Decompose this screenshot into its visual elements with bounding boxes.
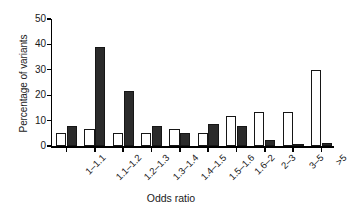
x-axis-tick-label: 2–3 — [278, 152, 297, 171]
x-axis-tick-label: 1.6–2 — [252, 152, 277, 177]
bar-filled — [208, 124, 218, 146]
bar-filled — [95, 47, 105, 146]
y-axis-tick-mark — [47, 120, 52, 121]
bar-group — [84, 19, 105, 146]
y-axis-tick-mark — [47, 69, 52, 70]
bar-filled — [237, 126, 247, 146]
x-axis-tick-label: 1.3–1.4 — [170, 152, 200, 182]
bar-open — [56, 133, 66, 146]
x-axis-tick-label: 1.2–1.3 — [142, 152, 172, 182]
x-axis-tick-label: 3–5 — [307, 152, 326, 171]
y-axis-tick-label: 50 — [26, 14, 46, 24]
y-axis-tick-mark — [47, 95, 52, 96]
bar-open — [141, 133, 151, 146]
x-axis-tick-label: 1.4–1.5 — [198, 152, 228, 182]
y-axis-tick-label: 10 — [26, 116, 46, 126]
y-axis-tick-label: 20 — [26, 90, 46, 100]
y-axis-tick-label: 40 — [26, 39, 46, 49]
bar-group — [311, 19, 332, 146]
x-axis-title: Odds ratio — [0, 192, 342, 204]
bar-group — [283, 19, 304, 146]
bar-filled — [152, 126, 162, 146]
y-axis-tick-mark — [47, 44, 52, 45]
bar-open — [198, 133, 208, 146]
bar-filled — [322, 143, 332, 146]
y-axis-tick-labels: 01020304050 — [24, 0, 46, 216]
bar-group — [56, 19, 77, 146]
bar-group — [141, 19, 162, 146]
bar-open — [226, 116, 236, 146]
y-axis-tick-label: 0 — [26, 141, 46, 151]
bar-open — [169, 129, 179, 146]
bar-open — [283, 112, 293, 146]
y-axis-tick-mark — [47, 145, 52, 146]
bar-open — [84, 129, 94, 146]
bar-group — [226, 19, 247, 146]
bar-group — [169, 19, 190, 146]
bar-filled — [293, 144, 303, 146]
bar-filled — [124, 91, 134, 146]
x-axis-tick-label: 1–1.1 — [83, 152, 108, 177]
y-axis-line — [51, 19, 52, 146]
bar-filled — [180, 133, 190, 146]
bar-group — [198, 19, 219, 146]
bar-filled — [265, 140, 275, 146]
bar-open — [311, 70, 321, 146]
x-axis-tick-labels: 1–1.11.1–1.21.2–1.31.3–1.41.4–1.51.5–1.6… — [51, 152, 334, 192]
plot-area — [51, 19, 334, 146]
y-axis-tick-label: 30 — [26, 65, 46, 75]
bar-filled — [67, 126, 77, 146]
bar-open — [254, 112, 264, 146]
bar-group — [254, 19, 275, 146]
bar-group — [113, 19, 134, 146]
x-axis-tick-label: >5 — [334, 152, 349, 167]
y-axis-tick-mark — [47, 18, 52, 19]
x-axis-tick-label: 1.1–1.2 — [113, 152, 143, 182]
bar-open — [113, 133, 123, 146]
